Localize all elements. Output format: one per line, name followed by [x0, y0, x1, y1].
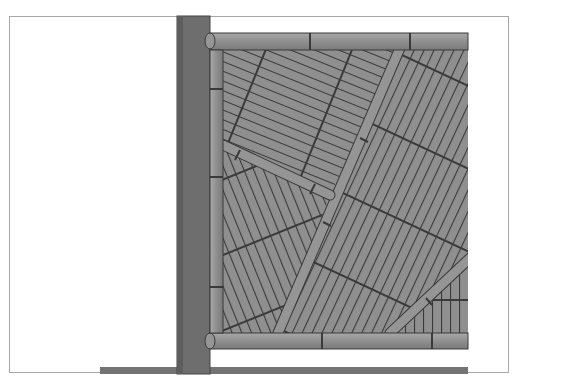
- bottom-rail: [205, 333, 468, 349]
- bamboo-fence-drawing: [0, 0, 573, 389]
- top-rail: [205, 33, 468, 50]
- side-rail: [210, 50, 223, 333]
- ground-line: [100, 367, 468, 374]
